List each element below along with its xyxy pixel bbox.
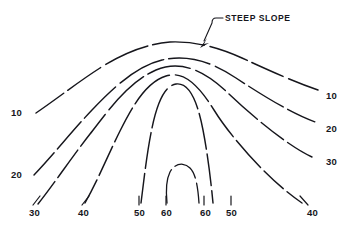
- contour-line-30: [38, 66, 312, 204]
- contour-label-bottom-60-left: 60: [161, 208, 172, 218]
- contour-60-segment: [166, 164, 199, 203]
- contour-label-bottom-60-right: 60: [200, 208, 211, 218]
- contour-50-segment: [141, 84, 213, 203]
- contour-line-40: [85, 75, 302, 203]
- contour-30-segment: [38, 66, 312, 204]
- contour-line-60: [166, 164, 199, 203]
- contour-40-segment: [85, 75, 302, 203]
- annotation-steep-slope: STEEP SLOPE: [225, 14, 291, 23]
- tick-40: [82, 196, 89, 205]
- tick-40-right: [300, 196, 308, 205]
- contour-line-50: [141, 84, 213, 203]
- contour-label-left-20: 20: [11, 170, 22, 180]
- steep-slope-leader: [200, 18, 223, 48]
- contour-label-right-10: 10: [326, 91, 337, 101]
- contour-label-bottom-30: 30: [29, 208, 40, 218]
- contour-label-left-10: 10: [11, 108, 22, 118]
- contour-label-bottom-40-left: 40: [78, 208, 89, 218]
- contour-lines-svg: [0, 0, 353, 236]
- contour-label-right-20: 20: [326, 124, 337, 134]
- contour-label-bottom-50-right: 50: [226, 208, 237, 218]
- contour-label-right-30: 30: [326, 157, 337, 167]
- contour-label-bottom-40-right: 40: [307, 208, 318, 218]
- contour-end-ticks: [33, 196, 308, 205]
- contour-label-bottom-50-left: 50: [134, 208, 145, 218]
- steep-slope-leader-line: [204, 18, 223, 41]
- contour-map-figure: STEEP SLOPE 10 20 10 20 30 30 40 50 60 6…: [0, 0, 353, 236]
